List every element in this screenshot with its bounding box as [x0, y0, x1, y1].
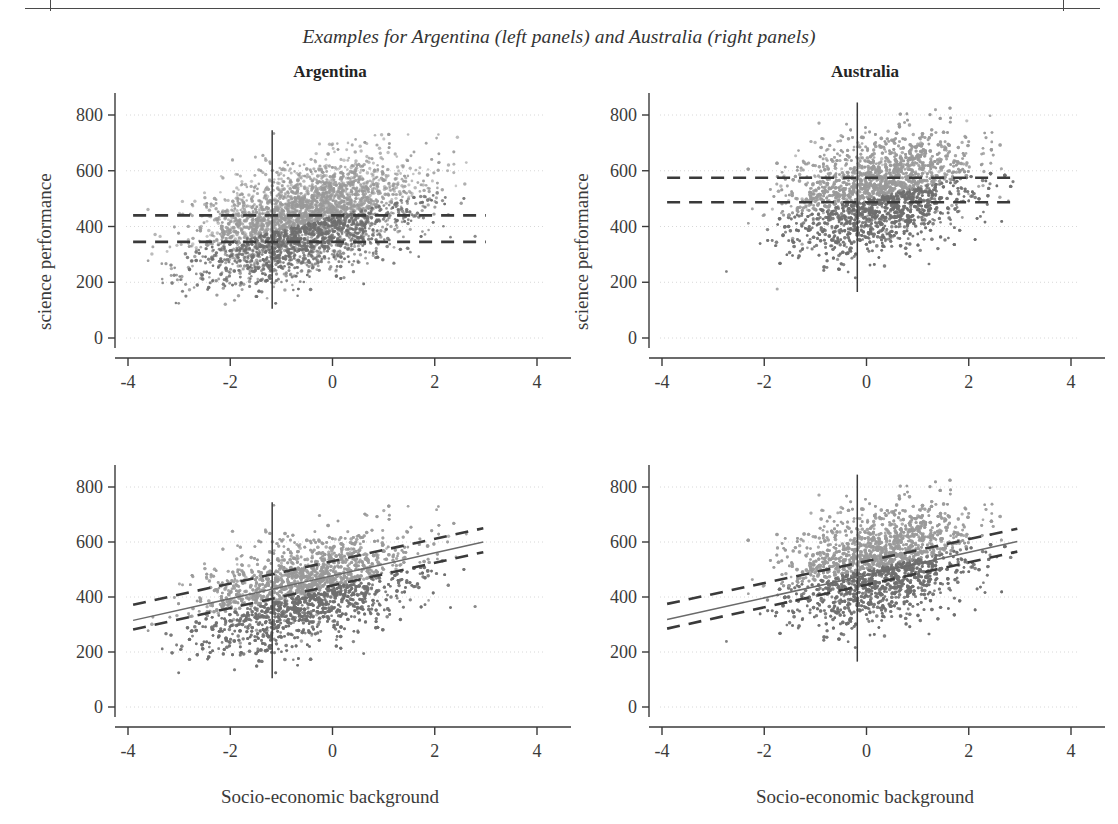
y-tick-label-400: 400	[76, 587, 103, 607]
y-tick-label-400: 400	[610, 217, 637, 237]
x-tick-label-2: 2	[964, 741, 973, 761]
x-tick-label-2: 2	[964, 372, 973, 392]
y-tick-label-800: 800	[610, 105, 637, 125]
x-tick-label--2: -2	[757, 741, 772, 761]
y-tick-label-0: 0	[628, 328, 637, 348]
x-tick-label-0: 0	[862, 372, 871, 392]
x-tick-label-0: 0	[328, 372, 337, 392]
x-tick-label--2: -2	[223, 741, 238, 761]
y-tick-label-800: 800	[610, 477, 637, 497]
y-tick-label-200: 200	[76, 642, 103, 662]
x-tick-label-2: 2	[430, 741, 439, 761]
x-tick-label-4: 4	[533, 372, 542, 392]
y-tick-label-200: 200	[76, 272, 103, 292]
x-tick-label--4: -4	[121, 741, 136, 761]
y-tick-label-200: 200	[610, 642, 637, 662]
y-tick-label-600: 600	[76, 532, 103, 552]
panel-argentina-top: 0200400600800-4-2024	[76, 93, 571, 392]
x-tick-label--4: -4	[655, 372, 670, 392]
y-tick-label-0: 0	[94, 697, 103, 717]
y-tick-label-600: 600	[610, 532, 637, 552]
y-tick-label-600: 600	[76, 161, 103, 181]
point-cloud	[146, 132, 476, 306]
y-tick-label-400: 400	[610, 587, 637, 607]
y-tick-label-800: 800	[76, 105, 103, 125]
x-tick-label--2: -2	[223, 372, 238, 392]
y-tick-label-0: 0	[94, 328, 103, 348]
y-tick-label-400: 400	[76, 217, 103, 237]
point-cloud	[725, 106, 1014, 290]
x-tick-label-0: 0	[862, 741, 871, 761]
x-tick-label-4: 4	[1067, 372, 1076, 392]
y-tick-label-200: 200	[610, 272, 637, 292]
x-tick-label-4: 4	[533, 741, 542, 761]
panel-australia-top: 0200400600800-4-2024	[610, 93, 1105, 392]
panel-argentina-bottom: 0200400600800-4-2024	[76, 465, 571, 761]
x-tick-label--4: -4	[655, 741, 670, 761]
y-tick-label-0: 0	[628, 697, 637, 717]
scatter-plot-canvas: 0200400600800-4-20240200400600800-4-2024…	[0, 0, 1118, 824]
x-tick-label-2: 2	[430, 372, 439, 392]
x-tick-label--4: -4	[121, 372, 136, 392]
x-tick-label--2: -2	[757, 372, 772, 392]
panel-australia-bottom: 0200400600800-4-2024	[610, 465, 1105, 761]
x-tick-label-0: 0	[328, 741, 337, 761]
y-tick-label-800: 800	[76, 477, 103, 497]
x-tick-label-4: 4	[1067, 741, 1076, 761]
point-cloud	[725, 479, 1014, 649]
figure-root: Examples for Argentina (left panels) and…	[0, 0, 1118, 824]
y-tick-label-600: 600	[610, 161, 637, 181]
